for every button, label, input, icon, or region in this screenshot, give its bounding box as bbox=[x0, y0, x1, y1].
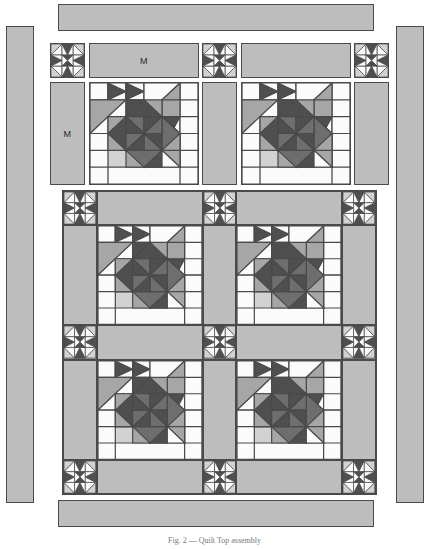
sashing-c-r3c2-label bbox=[204, 361, 236, 459]
sashing-c-r1c2-label bbox=[204, 226, 236, 324]
pinwheel-top-center bbox=[202, 43, 237, 78]
pinwheel-c-r0c2 bbox=[203, 191, 237, 225]
sashing-top-second-label bbox=[242, 44, 350, 77]
pinwheel-c-r2c4 bbox=[342, 325, 376, 359]
outer-border-top-label bbox=[59, 5, 373, 30]
quilt-diagram: MMFig. 2 — Quilt Top assembly bbox=[0, 0, 429, 549]
sashing-c-r4c3 bbox=[236, 460, 342, 494]
pinwheel-top-left bbox=[50, 43, 85, 78]
pinwheel-c-r4c4 bbox=[342, 460, 376, 494]
outer-border-left bbox=[6, 26, 34, 503]
sashing-middle-vertical-top bbox=[202, 82, 237, 185]
outer-border-right bbox=[396, 26, 424, 503]
sashing-middle-vertical-top-label bbox=[203, 83, 236, 184]
star-c-r1c3 bbox=[236, 225, 342, 325]
sashing-c-r3c0-label bbox=[64, 361, 96, 459]
pinwheel-c-r0c0 bbox=[63, 191, 97, 225]
sashing-c-r1c2 bbox=[203, 225, 237, 325]
sashing-top-second bbox=[241, 43, 351, 78]
sashing-c-r3c0 bbox=[63, 360, 97, 460]
sashing-left-vertical-label: M bbox=[51, 83, 84, 184]
outer-border-bottom-label bbox=[59, 501, 373, 526]
pinwheel-c-r0c4 bbox=[342, 191, 376, 225]
outer-border-left-label bbox=[7, 27, 33, 502]
sashing-c-r2c1 bbox=[97, 325, 203, 359]
star-block-r1c1 bbox=[89, 82, 199, 185]
sashing-c-r1c0-label bbox=[64, 226, 96, 324]
sashing-c-r1c0 bbox=[63, 225, 97, 325]
sashing-top-first-label: M bbox=[90, 44, 198, 77]
outer-border-bottom bbox=[58, 500, 374, 527]
pinwheel-c-r4c0 bbox=[63, 460, 97, 494]
sashing-c-r3c4 bbox=[342, 360, 376, 460]
sashing-right-vertical-top bbox=[354, 82, 389, 185]
sashing-c-r0c3-label bbox=[237, 192, 341, 224]
star-c-r3c3 bbox=[236, 360, 342, 460]
sashing-c-r3c4-label bbox=[343, 361, 375, 459]
sashing-c-r0c1 bbox=[97, 191, 203, 225]
sashing-c-r4c3-label bbox=[237, 461, 341, 493]
sashing-left-vertical: M bbox=[50, 82, 85, 185]
pinwheel-c-r2c2 bbox=[203, 325, 237, 359]
sashing-c-r4c1 bbox=[97, 460, 203, 494]
figure-caption: Fig. 2 — Quilt Top assembly bbox=[0, 536, 429, 545]
quilt-center-assembled bbox=[62, 190, 377, 495]
pinwheel-c-r2c0 bbox=[63, 325, 97, 359]
outer-border-right-label bbox=[397, 27, 423, 502]
sashing-c-r2c3-label bbox=[237, 326, 341, 358]
sashing-right-vertical-top-label bbox=[355, 83, 388, 184]
star-c-r1c1 bbox=[97, 225, 203, 325]
sashing-c-r1c4 bbox=[342, 225, 376, 325]
sashing-top-first: M bbox=[89, 43, 199, 78]
sashing-c-r2c1-label bbox=[98, 326, 202, 358]
sashing-c-r2c3 bbox=[236, 325, 342, 359]
pinwheel-c-r4c2 bbox=[203, 460, 237, 494]
sashing-c-r4c1-label bbox=[98, 461, 202, 493]
sashing-c-r1c4-label bbox=[343, 226, 375, 324]
star-block-r1c2 bbox=[241, 82, 351, 185]
sashing-c-r0c1-label bbox=[98, 192, 202, 224]
pinwheel-top-right bbox=[354, 43, 389, 78]
sashing-c-r3c2 bbox=[203, 360, 237, 460]
sashing-c-r0c3 bbox=[236, 191, 342, 225]
star-c-r3c1 bbox=[97, 360, 203, 460]
outer-border-top bbox=[58, 4, 374, 31]
